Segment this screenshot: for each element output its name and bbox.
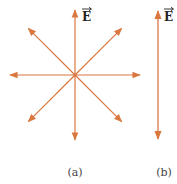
field-label-b: E [164, 7, 174, 24]
caption-a: (a) [67, 166, 82, 179]
field-label-a: E [82, 7, 92, 24]
source-point [73, 73, 76, 76]
field-label-a-text: E [82, 10, 91, 24]
diagram-canvas: E E (a) (b) [0, 0, 177, 184]
caption-b: (b) [156, 166, 172, 179]
field-vector-a-5 [28, 75, 75, 122]
field-vector-a-3 [75, 75, 122, 122]
field-vector-a-7 [28, 28, 75, 75]
panel-a [10, 10, 140, 140]
field-vector-a-1 [75, 28, 122, 75]
field-label-b-text: E [164, 10, 173, 24]
